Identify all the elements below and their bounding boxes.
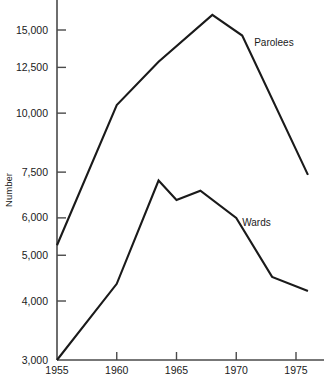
y-tick-label: 7,500 [22, 166, 48, 178]
y-tick-label: 5,000 [22, 249, 48, 261]
x-tick-label: 1955 [45, 364, 69, 376]
x-tick-label: 1965 [165, 364, 189, 376]
x-tick-label: 1960 [105, 364, 129, 376]
y-tick-label: 3,000 [22, 354, 48, 366]
x-tick-label: 1975 [284, 364, 308, 376]
chart-container: 3,0004,0005,0006,0007,50010,00012,50015,… [0, 0, 324, 387]
series-annotations: ParoleesWards [242, 37, 293, 228]
series-label-parolees: Parolees [254, 37, 293, 48]
data-series-lines [57, 15, 308, 360]
x-tick-label: 1970 [225, 364, 249, 376]
series-line-parolees [57, 15, 308, 245]
x-axis-tick-labels: 19551960196519701975 [45, 364, 308, 376]
y-tick-label: 15,000 [16, 24, 48, 36]
chart-axes [57, 0, 324, 360]
y-tick-label: 12,500 [16, 61, 48, 73]
axis-tick-marks [57, 30, 296, 360]
y-tick-label: 4,000 [22, 295, 48, 307]
y-tick-label: 6,000 [22, 211, 48, 223]
y-axis-tick-labels: 3,0004,0005,0006,0007,50010,00012,50015,… [16, 24, 48, 366]
line-chart: 3,0004,0005,0006,0007,50010,00012,50015,… [0, 0, 324, 387]
series-label-wards: Wards [242, 217, 271, 228]
y-axis-title: Number [3, 173, 14, 207]
y-tick-label: 10,000 [16, 107, 48, 119]
series-line-wards [57, 180, 308, 360]
